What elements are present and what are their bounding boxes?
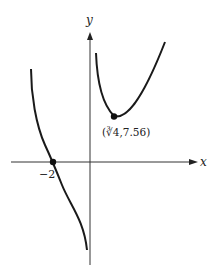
y-axis-arrow-icon xyxy=(87,32,93,40)
y-axis xyxy=(87,32,93,265)
left-branch-curve xyxy=(31,69,87,250)
local-minimum-label: (∛4,7.56) xyxy=(102,126,150,138)
local-minimum-point xyxy=(111,113,117,119)
x-axis-label: x xyxy=(200,155,207,169)
x-intercept-point xyxy=(50,159,56,165)
x-intercept-label: −2 xyxy=(39,168,55,181)
right-branch-curve xyxy=(96,42,165,116)
y-axis-label: y xyxy=(85,13,93,27)
function-graph: y x −2 (∛4,7.56) xyxy=(0,0,218,276)
x-axis xyxy=(11,159,198,165)
x-axis-arrow-icon xyxy=(189,159,198,165)
